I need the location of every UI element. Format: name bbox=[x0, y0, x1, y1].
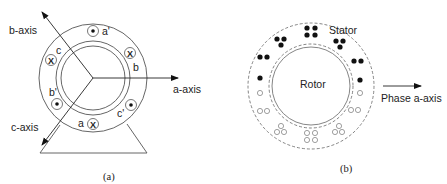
svg-text:X: X bbox=[90, 120, 96, 130]
conductor-label: a bbox=[78, 117, 84, 129]
conductor-label: b' bbox=[49, 86, 57, 98]
figure-b-caption: (b) bbox=[340, 163, 353, 175]
diagram-canvas: a-axis b-axis c-axis a' X b c' X a bbox=[0, 0, 447, 184]
b-axis-label: b-axis bbox=[9, 24, 37, 36]
conductor-label: c' bbox=[117, 107, 124, 119]
stator-label: Stator bbox=[329, 24, 358, 36]
figure-b: Rotor Stator bbox=[248, 23, 442, 175]
figure-a-caption: (a) bbox=[103, 171, 115, 183]
figure-a: a-axis b-axis c-axis a' X b c' X a bbox=[9, 12, 201, 183]
conductor-label: b bbox=[133, 61, 139, 73]
a-axis-label: a-axis bbox=[173, 83, 201, 95]
conductor-label: a' bbox=[102, 25, 110, 37]
rotor-label: Rotor bbox=[300, 78, 326, 90]
phase-a-axis-label: Phase a-axis bbox=[381, 92, 442, 104]
c-axis-label: c-axis bbox=[11, 121, 38, 133]
hollow-conductors bbox=[257, 90, 362, 142]
svg-text:X: X bbox=[48, 56, 54, 66]
conductor-label: c bbox=[56, 44, 61, 56]
svg-text:X: X bbox=[127, 49, 133, 59]
